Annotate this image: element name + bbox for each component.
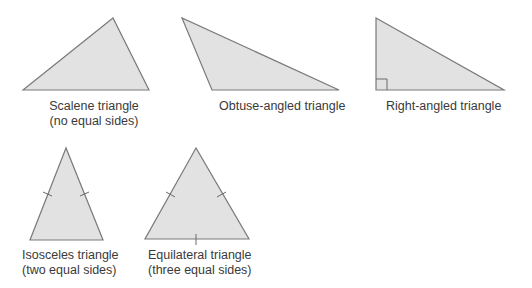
triangles-diagram [0,0,532,288]
equilateral-label-line1: Equilateral triangle [148,248,248,263]
obtuse-label-line1: Obtuse-angled triangle [219,99,339,114]
right-triangle [376,18,504,90]
isosceles-label-line1: Isosceles triangle [22,248,116,263]
scalene-triangle [23,18,149,90]
isosceles-label: Isosceles triangle (two equal sides) [22,248,116,278]
isosceles-label-line2: (two equal sides) [22,263,116,278]
right-label: Right-angled triangle [386,99,498,114]
equilateral-triangle [145,148,249,239]
obtuse-triangle [182,18,339,90]
equilateral-label: Equilateral triangle (three equal sides) [148,248,248,278]
obtuse-label: Obtuse-angled triangle [219,99,339,114]
scalene-label-line1: Scalene triangle [44,99,144,114]
scalene-label: Scalene triangle (no equal sides) [44,99,144,129]
equilateral-label-line2: (three equal sides) [148,263,248,278]
isosceles-triangle [30,148,103,240]
scalene-label-line2: (no equal sides) [44,114,144,129]
right-label-line1: Right-angled triangle [386,99,498,114]
